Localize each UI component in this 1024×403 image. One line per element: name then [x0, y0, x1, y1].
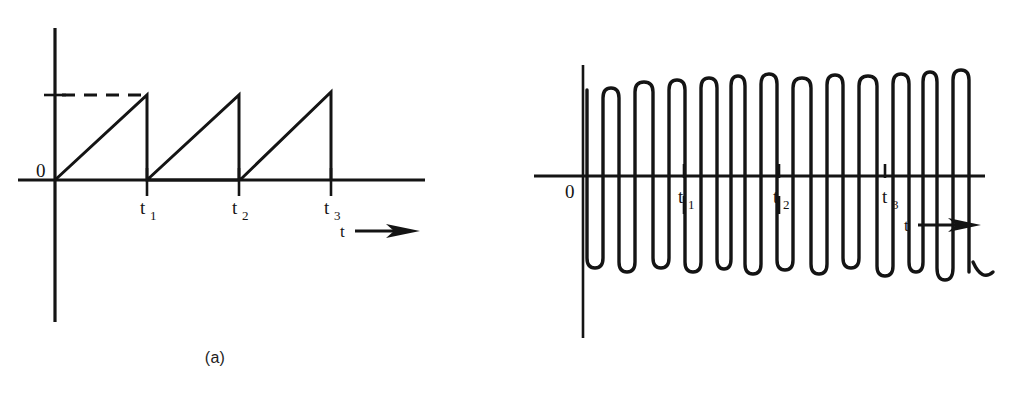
panel-sawtooth: 0 t 1 t 2 t 3 t (a)	[0, 0, 512, 403]
axis-label-t-a: t	[340, 222, 345, 241]
tick-label-t2-sub-b: 2	[783, 197, 790, 212]
tick-label-t1-sub-b: 1	[688, 197, 695, 212]
tick-label-t3-sub-b: 3	[892, 197, 899, 212]
tick-label-t1-a: t	[140, 197, 146, 218]
figure-root: 0 t 1 t 2 t 3 t (a)	[0, 0, 1024, 403]
tick-label-t3-b: t	[882, 186, 888, 207]
tick-label-t2-b: t	[773, 186, 779, 207]
tick-label-t1-b: t	[678, 186, 684, 207]
caption-a: (a)	[155, 349, 275, 367]
tick-label-t2-sub-a: 2	[242, 208, 249, 223]
axis-label-t-b: t	[904, 216, 909, 235]
oscillation-tail-curl	[973, 262, 993, 275]
sawtooth-plot-svg: 0 t 1 t 2 t 3 t	[0, 0, 512, 403]
origin-label-a: 0	[36, 160, 46, 181]
tick-label-t3-a: t	[324, 197, 330, 218]
sawtooth-waveform	[55, 92, 331, 180]
panel-oscillation: 0 t 1 t 2 t 3 t (b)	[512, 0, 1024, 403]
oscillation-plot-svg: 0 t 1 t 2 t 3 t	[512, 0, 1024, 403]
tick-label-t3-sub-a: 3	[334, 208, 341, 223]
tick-label-t1-sub-a: 1	[150, 208, 157, 223]
tick-label-t2-a: t	[232, 197, 238, 218]
origin-label-b: 0	[565, 181, 575, 202]
